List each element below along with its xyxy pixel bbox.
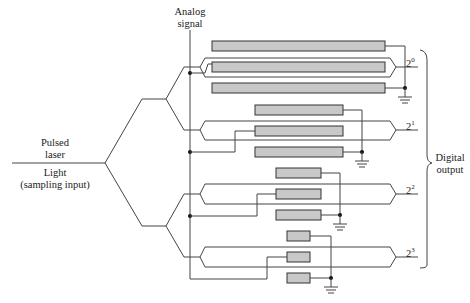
- signal-feed-2: [190, 194, 276, 216]
- pulsed-label-line2: laser: [20, 149, 90, 161]
- split-2b-upper: [166, 194, 200, 226]
- split-2a-lower: [166, 99, 200, 130]
- electrode-0-bot: [212, 83, 385, 93]
- ground-wire-1: [343, 110, 362, 152]
- split-1-upper: [105, 99, 166, 163]
- digital-label-line1: Digital: [430, 152, 470, 164]
- optical-adc-diagram: Analog signal Pulsed laser Light (sampli…: [0, 0, 470, 303]
- pulsed-label-line1: Pulsed: [20, 137, 90, 149]
- pulsed-laser-label: Pulsed laser: [20, 137, 90, 161]
- bit-label-2-2: 22: [406, 182, 415, 196]
- split-2b-lower: [166, 226, 200, 257]
- bit-label-2-1: 21: [406, 118, 415, 132]
- split-1-lower: [105, 163, 166, 226]
- electrode-2-mid: [276, 189, 321, 199]
- light-label-line1: Light: [10, 167, 100, 179]
- electrode-0-top: [212, 41, 385, 51]
- analog-label-line1: Analog: [165, 6, 215, 18]
- electrode-1-top: [255, 105, 343, 115]
- light-sampling-input-label: Light (sampling input): [10, 167, 100, 191]
- ground-wire-3: [310, 236, 331, 278]
- electrode-2-bot: [276, 210, 321, 220]
- split-2a-upper: [166, 67, 200, 99]
- bit-label-2-0: 20: [406, 55, 415, 69]
- digital-output-label: Digital output: [430, 152, 470, 176]
- bit-label-2-3: 23: [406, 245, 415, 259]
- electrode-1-mid: [255, 126, 343, 136]
- electrode-2-top: [276, 168, 321, 178]
- signal-feed-1: [190, 131, 255, 152]
- electrode-0-mid: [212, 62, 385, 72]
- electrode-3-top: [287, 231, 310, 241]
- analog-label-line2: signal: [165, 18, 215, 30]
- ground-wire-2: [321, 173, 340, 215]
- electrode-3-bot: [287, 273, 310, 283]
- signal-feed-3: [190, 257, 287, 279]
- electrode-1-bot: [255, 147, 343, 157]
- electrode-3-mid: [287, 252, 310, 262]
- analog-signal-label: Analog signal: [165, 6, 215, 30]
- digital-label-line2: output: [430, 164, 470, 176]
- light-label-line2: (sampling input): [10, 179, 100, 191]
